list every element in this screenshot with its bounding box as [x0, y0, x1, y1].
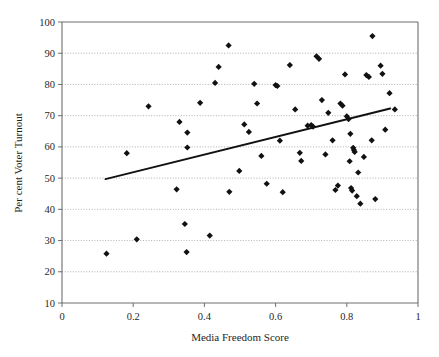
data-point-marker — [212, 80, 218, 86]
data-points — [103, 33, 398, 257]
data-point-marker — [264, 181, 270, 187]
y-tick-label: 80 — [45, 79, 56, 90]
data-point-marker — [251, 81, 257, 87]
y-tick-label: 30 — [45, 235, 56, 246]
y-tick-label: 40 — [45, 204, 56, 215]
data-point-marker — [280, 189, 286, 195]
data-point-marker — [184, 129, 190, 135]
x-tick-label: 1 — [415, 311, 420, 322]
data-point-marker — [357, 201, 363, 207]
data-point-marker — [134, 236, 140, 242]
data-point-marker — [207, 232, 213, 238]
data-point-marker — [292, 106, 298, 112]
data-point-marker — [182, 221, 188, 227]
y-tick-label: 90 — [45, 48, 56, 59]
data-point-marker — [226, 189, 232, 195]
data-point-marker — [386, 90, 392, 96]
data-point-marker — [246, 129, 252, 135]
data-point-marker — [298, 158, 304, 164]
regression-trendline — [105, 108, 390, 179]
data-point-marker — [174, 186, 180, 192]
data-point-marker — [258, 153, 264, 159]
data-point-marker — [372, 196, 378, 202]
data-point-marker — [325, 110, 331, 116]
data-point-marker — [382, 127, 388, 133]
data-point-marker — [216, 64, 222, 70]
data-point-marker — [347, 131, 353, 137]
y-tick-label: 50 — [45, 173, 56, 184]
data-point-marker — [379, 71, 385, 77]
x-tick-label: 0 — [59, 311, 64, 322]
data-point-marker — [241, 121, 247, 127]
data-point-marker — [342, 71, 348, 77]
x-axis-ticks: 00.20.40.60.81 — [59, 303, 420, 322]
x-axis-title: Media Freedom Score — [191, 331, 289, 343]
data-point-marker — [287, 62, 293, 68]
x-tick-label: 0.4 — [198, 311, 212, 322]
scatter-plot-figure: 102030405060708090100 00.20.40.60.81 Med… — [0, 0, 439, 357]
grid-lines — [62, 53, 418, 272]
data-point-marker — [329, 137, 335, 143]
data-point-marker — [197, 100, 203, 106]
x-tick-label: 0.8 — [340, 311, 353, 322]
plot-svg: 102030405060708090100 00.20.40.60.81 Med… — [0, 0, 439, 357]
data-point-marker — [319, 97, 325, 103]
data-point-marker — [103, 251, 109, 257]
data-point-marker — [369, 137, 375, 143]
y-tick-label: 20 — [45, 266, 56, 277]
data-point-marker — [254, 100, 260, 106]
y-axis-title: Per cent Voter Turnout — [12, 113, 24, 213]
data-point-marker — [124, 150, 130, 156]
data-point-marker — [361, 154, 367, 160]
data-point-marker — [145, 103, 151, 109]
data-point-marker — [184, 249, 190, 255]
data-point-marker — [297, 150, 303, 156]
y-axis-ticks: 102030405060708090100 — [39, 17, 62, 309]
data-point-marker — [347, 158, 353, 164]
data-point-marker — [236, 168, 242, 174]
data-point-marker — [392, 106, 398, 112]
data-point-marker — [354, 193, 360, 199]
data-point-marker — [277, 138, 283, 144]
y-tick-label: 70 — [45, 110, 56, 121]
data-point-marker — [226, 42, 232, 48]
data-point-marker — [355, 169, 361, 175]
data-point-marker — [176, 119, 182, 125]
data-point-marker — [378, 63, 384, 69]
data-point-marker — [322, 151, 328, 157]
x-tick-label: 0.6 — [269, 311, 282, 322]
data-point-marker — [184, 144, 190, 150]
y-tick-label: 60 — [45, 141, 56, 152]
y-tick-label: 100 — [39, 17, 55, 28]
data-point-marker — [369, 33, 375, 39]
y-tick-label: 10 — [45, 298, 56, 309]
x-tick-label: 0.2 — [127, 311, 140, 322]
